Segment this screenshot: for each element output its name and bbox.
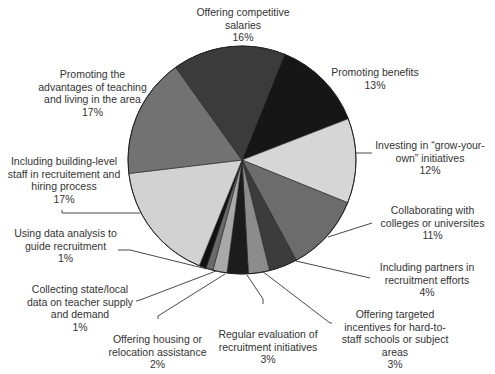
label-pct: 13% xyxy=(305,79,445,92)
label-text: recruitment initiatives xyxy=(208,341,328,354)
label-pct: 16% xyxy=(178,31,308,44)
label-text: incentives for hard-to- xyxy=(330,321,460,334)
label-pct: 11% xyxy=(370,229,495,242)
label-advantages: Promoting the advantages of teaching and… xyxy=(30,68,155,118)
label-partners: Including partners in recruitment effort… xyxy=(368,261,486,299)
label-text: hiring process xyxy=(0,180,128,193)
label-benefits: Promoting benefits 13% xyxy=(305,66,445,91)
label-building: Including building-level staff in recrui… xyxy=(0,155,128,205)
label-housing: Offering housing or relocation assistanc… xyxy=(100,333,215,371)
label-text: Offering targeted xyxy=(330,308,460,321)
label-analysis: Using data analysis to guide recruitment… xyxy=(8,227,123,265)
label-text: Promoting benefits xyxy=(305,66,445,79)
label-pct: 1% xyxy=(8,252,123,265)
label-grow: Investing in “grow-your- own” initiative… xyxy=(365,139,495,177)
label-text: Offering housing or xyxy=(100,333,215,346)
label-text: salaries xyxy=(178,19,308,32)
label-pct: 12% xyxy=(365,164,495,177)
label-pct: 4% xyxy=(368,286,486,299)
label-text: colleges or universites xyxy=(370,217,495,230)
label-text: areas xyxy=(330,346,460,359)
label-text: Investing in “grow-your- xyxy=(365,139,495,152)
label-salaries: Offering competitive salaries 16% xyxy=(178,6,308,44)
label-text: Including partners in xyxy=(368,261,486,274)
label-pct: 17% xyxy=(30,106,155,119)
label-incentives: Offering targeted incentives for hard-to… xyxy=(330,308,460,371)
label-text: data on teacher supply xyxy=(20,296,140,309)
label-text: Offering competitive xyxy=(178,6,308,19)
label-text: Collecting state/local xyxy=(20,283,140,296)
label-pct: 3% xyxy=(208,353,328,366)
label-text: and living in the area xyxy=(30,93,155,106)
label-text: Promoting the xyxy=(30,68,155,81)
leader-incentives xyxy=(262,271,332,323)
label-pct: 3% xyxy=(330,358,460,371)
label-collab: Collaborating with colleges or universit… xyxy=(370,204,495,242)
label-text: own” initiatives xyxy=(365,152,495,165)
label-text: staff schools or subject xyxy=(330,333,460,346)
label-collecting: Collecting state/local data on teacher s… xyxy=(20,283,140,333)
leader-collecting xyxy=(136,271,216,301)
label-pct: 2% xyxy=(100,358,215,371)
label-text: Collaborating with xyxy=(370,204,495,217)
label-text: staff in recruitement and xyxy=(0,168,128,181)
label-text: guide recruitment xyxy=(8,240,123,253)
label-text: Regular evaluation of xyxy=(208,328,328,341)
label-text: advantages of teaching xyxy=(30,81,155,94)
leader-evaluation xyxy=(247,275,263,304)
label-pct: 17% xyxy=(0,193,128,206)
leader-building xyxy=(62,210,140,213)
label-text: relocation assistance xyxy=(100,346,215,359)
label-pct: 1% xyxy=(20,321,140,334)
label-text: recruitment efforts xyxy=(368,274,486,287)
leader-partners xyxy=(296,261,370,278)
label-evaluation: Regular evaluation of recruitment initia… xyxy=(208,328,328,366)
label-text: and demand xyxy=(20,308,140,321)
label-text: Using data analysis to xyxy=(8,227,123,240)
label-text: Including building-level xyxy=(0,155,128,168)
